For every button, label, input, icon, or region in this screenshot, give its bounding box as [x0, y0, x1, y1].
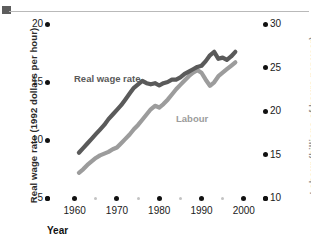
plot-area — [0, 0, 311, 243]
series-label-real-wage-rate: Real wage rate — [74, 73, 141, 84]
series-label-labour: Labour — [176, 113, 208, 124]
series-line-real-wage-rate — [79, 52, 235, 153]
chart-figure: Real wage rate (1992 dollars per hour) L… — [0, 0, 311, 243]
